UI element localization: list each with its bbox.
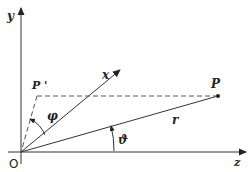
theta-angle-arc xyxy=(111,126,114,151)
radius-label: r xyxy=(172,113,180,127)
point-p-prime-label: P ' xyxy=(31,79,47,92)
y-axis-label: y xyxy=(6,9,15,23)
coordinate-diagram: y z x O P P ' r φ ϑ xyxy=(0,0,252,172)
point-p-dot xyxy=(216,94,220,98)
point-p-label: P xyxy=(210,77,221,91)
theta-angle-label: ϑ xyxy=(118,133,128,147)
phi-angle-label: φ xyxy=(47,109,58,123)
phi-angle-arc xyxy=(30,119,45,135)
x-axis-label: x xyxy=(101,68,110,82)
z-axis-label: z xyxy=(233,156,241,169)
origin-label: O xyxy=(9,157,18,171)
dashed-pprime-to-origin xyxy=(21,96,37,152)
